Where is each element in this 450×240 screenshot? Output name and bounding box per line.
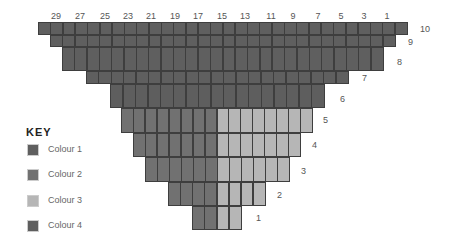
column-label: 19	[165, 11, 185, 21]
chart-cell	[133, 108, 146, 133]
chart-cell	[157, 157, 170, 182]
column-label: 15	[212, 11, 232, 21]
chart-cell	[240, 133, 253, 157]
chart-cell	[229, 157, 242, 182]
chart-cell	[123, 84, 136, 108]
chart-cell	[210, 22, 223, 35]
chart-cell	[205, 133, 218, 157]
chart-cell	[265, 157, 278, 182]
chart-cell	[261, 84, 274, 108]
chart-cell	[247, 35, 260, 47]
chart-cell	[346, 35, 359, 47]
chart-cell	[228, 108, 241, 133]
chart-cell	[286, 84, 299, 108]
chart-cell	[62, 47, 75, 71]
chart-cell	[333, 35, 346, 47]
chart-cell	[272, 47, 285, 71]
chart-cell	[259, 22, 272, 35]
chart-cell	[181, 157, 194, 182]
chart-cell	[236, 71, 249, 84]
chart-cell	[193, 133, 206, 157]
row-label: 9	[408, 37, 413, 47]
chart-cell	[145, 133, 158, 157]
chart-cell	[133, 133, 146, 157]
chart-cell	[217, 133, 230, 157]
chart-cell	[173, 47, 186, 71]
chart-cell	[210, 47, 223, 71]
row-label: 10	[420, 24, 430, 34]
chart-cell	[382, 22, 395, 35]
chart-cell	[149, 22, 162, 35]
chart-cell	[204, 206, 217, 230]
chart-cell	[161, 71, 174, 84]
chart-cell	[124, 35, 137, 47]
chart-cell	[112, 22, 125, 35]
chart-cell	[311, 84, 324, 108]
chart-cell	[370, 35, 383, 47]
chart-cell	[198, 22, 211, 35]
chart-cell	[168, 182, 181, 206]
column-label: 5	[331, 11, 351, 21]
chart-cell	[223, 47, 236, 71]
chart-cell	[100, 22, 113, 35]
chart-cell	[274, 84, 287, 108]
chart-cell	[111, 47, 124, 71]
chart-cell	[248, 71, 261, 84]
chart-cell	[192, 206, 205, 230]
chart-cell	[241, 182, 254, 206]
chart-cell	[298, 71, 311, 84]
chart-cell	[50, 35, 63, 47]
chart-cell	[148, 84, 161, 108]
chart-cell	[75, 22, 88, 35]
chart-cell	[87, 35, 100, 47]
chart-cell	[161, 47, 174, 71]
chart-cell	[311, 71, 324, 84]
chart-cell	[161, 22, 174, 35]
chart-cell	[87, 22, 100, 35]
chart-cell	[193, 157, 206, 182]
chart-cell	[185, 47, 198, 71]
chart-cell	[296, 35, 309, 47]
chart-cell	[145, 157, 158, 182]
chart-cell	[264, 133, 277, 157]
chart-cell	[173, 35, 186, 47]
chart-cell	[309, 35, 322, 47]
chart-cell	[272, 35, 285, 47]
colour-swatch	[27, 144, 39, 156]
chart-cell	[284, 22, 297, 35]
chart-cell	[276, 133, 289, 157]
chart-cell	[217, 108, 230, 133]
chart-cell	[205, 108, 218, 133]
chart-cell	[259, 35, 272, 47]
chart-cell	[217, 182, 230, 206]
chart-cell	[252, 108, 265, 133]
chart-cell	[135, 84, 148, 108]
chart-cell	[235, 22, 248, 35]
chart-cell	[173, 71, 186, 84]
chart-cell	[112, 35, 125, 47]
chart-cell	[99, 35, 112, 47]
chart-cell	[253, 157, 266, 182]
column-label: 13	[235, 11, 255, 21]
chart-cell	[87, 47, 100, 71]
column-label: 3	[354, 11, 374, 21]
row-label: 2	[277, 190, 282, 200]
chart-cell	[169, 133, 182, 157]
chart-cell	[75, 35, 88, 47]
chart-cell	[186, 22, 199, 35]
chart-cell	[383, 35, 396, 47]
chart-cell	[62, 35, 75, 47]
column-label: 9	[283, 11, 303, 21]
chart-cell	[223, 22, 236, 35]
chart-cell	[148, 47, 161, 71]
chart-cell	[248, 84, 261, 108]
chart-cell	[157, 133, 170, 157]
chart-cell	[86, 71, 99, 84]
chart-cell	[321, 22, 334, 35]
column-label: 27	[70, 11, 90, 21]
chart-cell	[296, 22, 309, 35]
chart-cell	[173, 22, 186, 35]
column-label: 11	[261, 11, 281, 21]
chart-cell	[169, 108, 182, 133]
chart-cell	[98, 71, 111, 84]
